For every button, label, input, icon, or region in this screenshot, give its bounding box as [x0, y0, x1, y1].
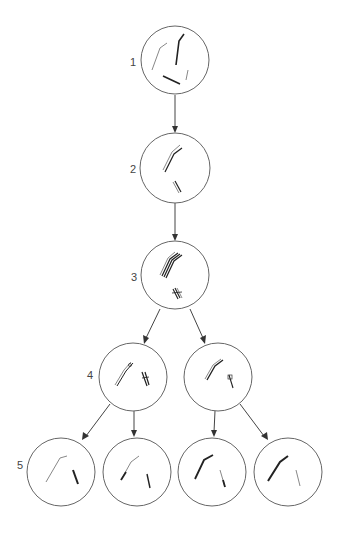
stage-label-5: 5 [17, 460, 23, 471]
lineage-diagram [0, 0, 341, 538]
stage-label-3: 3 [131, 272, 137, 283]
cell-stage-5-3 [178, 438, 246, 506]
cell-stage-4-right [184, 343, 252, 411]
cell-stage-4-left [99, 343, 167, 411]
cell-stage-5-4 [254, 438, 322, 506]
stage-label-1: 1 [130, 57, 136, 68]
cell-stage-2 [140, 133, 210, 203]
cell-stage-1 [141, 26, 209, 94]
stage-label-4: 4 [87, 370, 93, 381]
cell-stage-5-2 [103, 438, 171, 506]
stage-label-2: 2 [130, 164, 136, 175]
cell-stage-3 [141, 241, 209, 309]
cell-stage-5-1 [27, 438, 95, 506]
